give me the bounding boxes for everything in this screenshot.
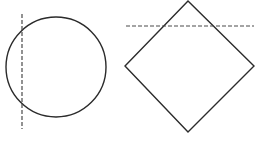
diamond-shape xyxy=(125,1,254,132)
circle-shape xyxy=(6,17,106,117)
diagram-canvas xyxy=(0,0,256,142)
